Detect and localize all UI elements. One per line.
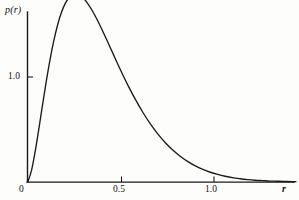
y-axis-label: p(r) <box>5 5 21 15</box>
x-axis-label: r <box>282 184 286 194</box>
x-tick-label-05: 0.5 <box>113 185 125 195</box>
tick-marks <box>28 77 215 182</box>
x-tick-label-10: 1.0 <box>205 185 217 195</box>
y-tick-label-1: 1.0 <box>8 72 20 82</box>
axis-lines <box>27 12 294 182</box>
plot-canvas <box>0 0 299 200</box>
density-curve <box>28 0 296 182</box>
origin-tick-label: 0 <box>19 185 24 195</box>
probability-density-figure: p(r) r 0 1.0 0.5 1.0 <box>0 0 299 200</box>
